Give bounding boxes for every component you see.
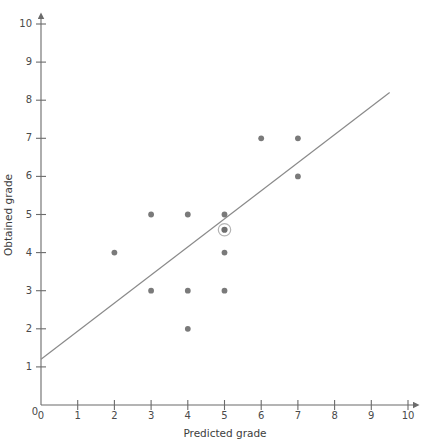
y-tick-label: 7 — [26, 133, 32, 143]
scatter-plot-figure: 012345678910 012345678910 Predicted grad… — [0, 0, 426, 444]
y-tick-label: 0 — [32, 407, 38, 417]
x-axis-title: Predicted grade — [183, 427, 266, 439]
y-tick-label: 10 — [19, 19, 32, 29]
x-tick-label: 7 — [295, 411, 301, 421]
data-point — [222, 212, 228, 218]
y-tick-label: 5 — [26, 210, 32, 220]
data-point — [295, 174, 301, 180]
x-tick-label: 1 — [75, 411, 81, 421]
x-tick-label: 9 — [368, 411, 374, 421]
data-point — [222, 250, 228, 256]
y-tick-label: 2 — [26, 324, 32, 334]
x-tick-label: 4 — [185, 411, 191, 421]
x-tick-label: 3 — [148, 411, 154, 421]
x-tick-label: 2 — [111, 411, 117, 421]
plot-canvas — [0, 0, 426, 444]
y-tick-label: 9 — [26, 57, 32, 67]
y-tick-label: 1 — [26, 362, 32, 372]
data-point — [148, 288, 154, 294]
data-point — [295, 135, 301, 141]
y-tick-label: 4 — [26, 248, 32, 258]
data-point — [185, 288, 191, 294]
y-tick-label: 3 — [26, 286, 32, 296]
x-tick-label: 5 — [221, 411, 227, 421]
y-axis-title: Obtained grade — [2, 174, 14, 256]
x-tick-label: 6 — [258, 411, 264, 421]
data-point — [222, 288, 228, 294]
mean-point-dot — [221, 227, 227, 233]
data-point — [112, 250, 118, 256]
x-tick-label: 8 — [331, 411, 337, 421]
data-point — [185, 326, 191, 332]
regression-trend-line — [41, 93, 390, 360]
y-tick-label: 8 — [26, 95, 32, 105]
data-point — [148, 212, 154, 218]
axis-lines — [41, 18, 414, 405]
x-tick-label: 10 — [402, 411, 415, 421]
x-tick-label: 0 — [38, 411, 44, 421]
data-point — [258, 135, 264, 141]
y-tick-label: 6 — [26, 171, 32, 181]
data-point — [185, 212, 191, 218]
highlighted-mean-point — [218, 224, 230, 236]
